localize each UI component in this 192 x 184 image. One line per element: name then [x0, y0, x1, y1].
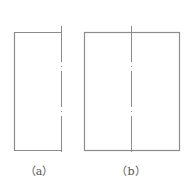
figure-a-caption: （a）	[19, 162, 59, 178]
figure-a	[15, 26, 62, 154]
figure-a-outline	[15, 33, 62, 151]
figure-b	[85, 26, 180, 154]
diagram-canvas	[0, 0, 192, 184]
figure-b-caption: （b）	[111, 162, 151, 178]
